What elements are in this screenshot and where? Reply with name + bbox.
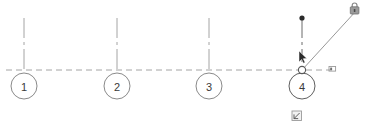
drag-status-icon (292, 111, 302, 121)
drawing-area[interactable]: 1 2 3 4 (0, 0, 375, 132)
bubble-label-2: 2 (114, 81, 120, 93)
grid-bubble-1[interactable]: 1 (11, 73, 37, 99)
grid-stem-group (24, 18, 302, 73)
cursor-arrow-icon (299, 51, 307, 63)
drag-rubber-band-line (302, 11, 356, 70)
bubble-label-3: 3 (206, 81, 212, 93)
grid-bubble-2[interactable]: 2 (104, 73, 130, 99)
snap-square-fill-icon (330, 68, 332, 71)
grid-bubble-4[interactable]: 4 (289, 73, 315, 99)
bubble-label-1: 1 (21, 81, 27, 93)
endpoint-grip-dot[interactable] (299, 15, 304, 20)
bubble-label-4: 4 (299, 81, 305, 93)
grid-bubble-3[interactable]: 3 (196, 73, 222, 99)
drag-grip-point[interactable] (298, 66, 305, 73)
padlock-icon (350, 3, 359, 14)
move-cursor (299, 51, 307, 63)
grid-plan-canvas[interactable]: 1 2 3 4 (0, 0, 375, 132)
padlock-keyhole-icon (354, 9, 356, 12)
